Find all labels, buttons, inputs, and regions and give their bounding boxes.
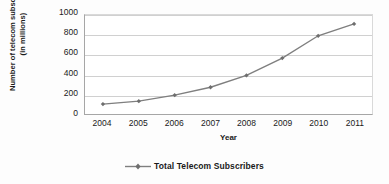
data-point-marker (244, 73, 248, 77)
y-axis-title: Number of telecom subscribers (in millio… (4, 0, 32, 99)
data-point-marker (101, 102, 105, 106)
x-axis-tick-label: 2009 (263, 118, 303, 128)
y-axis-title-line1: Number of telecom subscribers (8, 0, 18, 91)
x-axis-tick-label: 2004 (82, 118, 122, 128)
y-axis-tick-label: 1000 (44, 7, 78, 17)
chart-legend: Total Telecom Subscribers (0, 161, 389, 171)
x-axis-tick-label: 2005 (118, 118, 158, 128)
series-total-telecom-subscribers (85, 15, 372, 114)
y-axis-tick-labels: 02004006008001000 (44, 12, 78, 116)
y-axis-title-line2: (in millions) (18, 13, 28, 56)
x-axis-tick-label: 2010 (299, 118, 339, 128)
y-axis-tick-label: 800 (44, 27, 78, 37)
line-chart: Number of telecom subscribers (in millio… (0, 0, 389, 184)
y-axis-tick-label: 600 (44, 47, 78, 57)
y-axis-tick-label: 0 (44, 108, 78, 118)
legend-line-marker-icon (125, 162, 151, 171)
y-axis-tick-label: 200 (44, 88, 78, 98)
plot-area (84, 14, 373, 115)
data-point-marker (208, 85, 212, 89)
x-axis-tick-label: 2011 (335, 118, 375, 128)
data-point-marker (352, 22, 356, 26)
x-axis-tick-labels: 20042005200620072008200920102011 (84, 118, 373, 132)
y-axis-tick-label: 400 (44, 68, 78, 78)
legend-label: Total Telecom Subscribers (154, 161, 264, 171)
data-point-marker (173, 93, 177, 97)
x-axis-tick-label: 2006 (154, 118, 194, 128)
x-axis-tick-label: 2008 (227, 118, 267, 128)
x-axis-title: Year (84, 133, 373, 142)
data-point-marker (137, 99, 141, 103)
x-axis-tick-label: 2007 (190, 118, 230, 128)
